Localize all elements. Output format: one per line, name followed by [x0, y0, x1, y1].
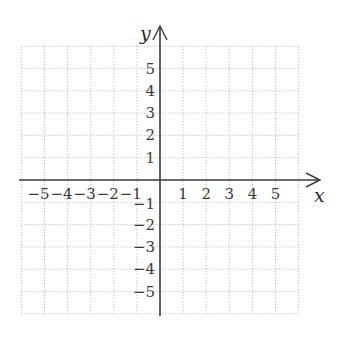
x-tick-label: 5: [271, 185, 281, 203]
y-tick-label: 4: [145, 82, 155, 100]
y-tick-label: −4: [133, 260, 155, 278]
axes: x y: [19, 22, 325, 316]
x-tick-label: 2: [201, 185, 211, 203]
x-tick-label: −2: [97, 185, 119, 203]
x-tick-label: 4: [248, 185, 258, 203]
y-tick-label: 5: [145, 60, 155, 78]
y-axis-label: y: [139, 22, 151, 44]
x-tick-label: −5: [27, 185, 49, 203]
x-axis-label: x: [314, 184, 325, 206]
y-tick-label: −3: [133, 238, 155, 256]
x-tick-label: 3: [225, 185, 235, 203]
x-tick-label: −3: [74, 185, 96, 203]
y-tick-label: −5: [133, 283, 155, 301]
x-tick-label: 1: [178, 185, 188, 203]
y-tick-label: 3: [145, 104, 155, 122]
y-tick-label: −2: [133, 216, 155, 234]
y-tick-label: −1: [133, 195, 155, 213]
x-tick-label: −4: [50, 185, 72, 203]
y-tick-label: 2: [145, 126, 155, 144]
y-tick-label: 1: [145, 149, 155, 167]
coordinate-plane: x y −5−4−3−2−112345 −5−4−3−2−112345: [0, 0, 344, 343]
